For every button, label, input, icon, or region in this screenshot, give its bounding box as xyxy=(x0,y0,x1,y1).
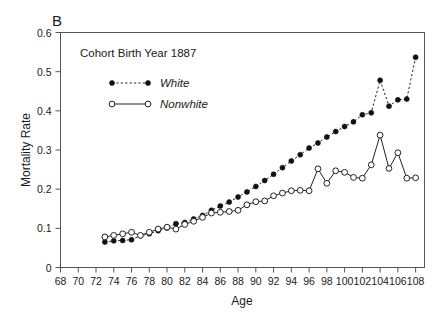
y-tick-label: 0 xyxy=(46,262,52,274)
data-point-white xyxy=(413,55,418,60)
data-point-nonwhite xyxy=(377,132,383,138)
data-point-nonwhite xyxy=(111,232,117,238)
x-tick-label: 92 xyxy=(268,275,280,287)
data-point-white xyxy=(378,78,383,83)
series-line-white xyxy=(105,57,416,242)
data-point-white xyxy=(129,237,134,242)
data-point-white xyxy=(244,189,249,194)
x-tick-label: 78 xyxy=(143,275,155,287)
series-line-nonwhite xyxy=(105,135,416,237)
data-point-nonwhite xyxy=(138,232,144,238)
y-axis-ticks: 00.10.20.30.40.50.6 xyxy=(37,27,61,274)
data-point-white xyxy=(360,112,365,117)
x-tick-label: 96 xyxy=(303,275,315,287)
x-tick-label: 94 xyxy=(285,275,297,287)
x-tick-label: 68 xyxy=(55,275,67,287)
legend-marker-nonwhite xyxy=(109,101,115,107)
data-point-nonwhite xyxy=(297,187,303,193)
legend-marker-white xyxy=(110,81,115,86)
x-axis-ticks: 6870727476788082848688909294969810010210… xyxy=(55,268,425,287)
x-tick-label: 98 xyxy=(321,275,333,287)
data-point-white xyxy=(271,172,276,177)
x-tick-label: 104 xyxy=(371,275,389,287)
x-tick-label: 88 xyxy=(232,275,244,287)
legend-label-nonwhite: Nonwhite xyxy=(160,98,208,110)
plot-frame xyxy=(61,33,425,268)
data-point-nonwhite xyxy=(404,175,410,181)
x-tick-label: 100 xyxy=(336,275,354,287)
x-tick-label: 90 xyxy=(250,275,262,287)
x-tick-label: 70 xyxy=(72,275,84,287)
data-point-white xyxy=(173,221,178,226)
data-point-nonwhite xyxy=(280,190,286,196)
x-tick-label: 74 xyxy=(108,275,120,287)
data-point-white xyxy=(386,104,391,109)
data-point-white xyxy=(395,97,400,102)
data-point-nonwhite xyxy=(155,226,161,232)
data-point-white xyxy=(218,204,223,209)
data-point-white xyxy=(342,124,347,129)
y-tick-label: 0.4 xyxy=(37,105,52,117)
data-point-nonwhite xyxy=(395,150,401,156)
plot-title: Cohort Birth Year 1887 xyxy=(80,47,196,59)
x-tick-label: 106 xyxy=(389,275,407,287)
mortality-rate-line-chart: B Cohort Birth Year 1887 00.10.20.30.40.… xyxy=(0,0,441,319)
x-tick-label: 82 xyxy=(179,275,191,287)
data-point-white xyxy=(111,238,116,243)
data-point-nonwhite xyxy=(271,193,277,199)
data-point-nonwhite xyxy=(359,175,365,181)
data-point-nonwhite xyxy=(226,209,232,215)
data-point-white xyxy=(324,135,329,140)
y-axis-title: Mortality Rate xyxy=(19,113,33,187)
data-point-nonwhite xyxy=(200,214,206,220)
data-point-nonwhite xyxy=(244,202,250,208)
data-point-white xyxy=(404,97,409,102)
x-tick-label: 72 xyxy=(90,275,102,287)
y-tick-label: 0.2 xyxy=(37,183,52,195)
data-point-nonwhite xyxy=(315,166,321,172)
data-point-nonwhite xyxy=(386,166,392,172)
y-tick-label: 0.3 xyxy=(37,144,52,156)
x-tick-label: 84 xyxy=(197,275,209,287)
data-point-white xyxy=(298,152,303,157)
data-point-white xyxy=(369,110,374,115)
data-point-nonwhite xyxy=(368,162,374,168)
chart-figure: B Cohort Birth Year 1887 00.10.20.30.40.… xyxy=(0,0,441,319)
data-point-nonwhite xyxy=(209,210,215,216)
x-tick-label: 86 xyxy=(214,275,226,287)
data-point-nonwhite xyxy=(191,218,197,224)
data-point-nonwhite xyxy=(217,209,223,215)
data-point-nonwhite xyxy=(288,188,294,194)
x-tick-label: 76 xyxy=(126,275,138,287)
panel-letter: B xyxy=(52,12,62,29)
data-point-nonwhite xyxy=(235,207,241,213)
data-point-nonwhite xyxy=(146,229,152,235)
data-point-white xyxy=(262,178,267,183)
data-point-nonwhite xyxy=(129,229,135,235)
data-point-nonwhite xyxy=(262,198,268,204)
x-tick-label: 102 xyxy=(354,275,372,287)
y-tick-label: 0.1 xyxy=(37,222,52,234)
data-point-nonwhite xyxy=(351,175,357,181)
legend-marker-nonwhite xyxy=(145,101,151,107)
data-point-nonwhite xyxy=(173,226,179,232)
data-point-nonwhite xyxy=(253,199,259,205)
legend-label-white: White xyxy=(160,77,189,89)
data-point-white xyxy=(120,238,125,243)
data-point-white xyxy=(307,146,312,151)
legend-marker-white xyxy=(146,81,151,86)
data-point-white xyxy=(253,184,258,189)
x-axis-title: Age xyxy=(231,294,253,308)
data-point-white xyxy=(351,119,356,124)
data-point-white xyxy=(333,129,338,134)
data-point-nonwhite xyxy=(102,234,108,240)
chart-legend: WhiteNonwhite xyxy=(109,77,208,110)
y-tick-label: 0.6 xyxy=(37,27,52,39)
data-point-nonwhite xyxy=(413,175,419,181)
data-point-nonwhite xyxy=(164,224,170,230)
data-point-nonwhite xyxy=(342,169,348,175)
data-point-nonwhite xyxy=(324,180,330,186)
x-tick-label: 80 xyxy=(161,275,173,287)
data-point-white xyxy=(289,158,294,163)
x-tick-label: 108 xyxy=(407,275,425,287)
